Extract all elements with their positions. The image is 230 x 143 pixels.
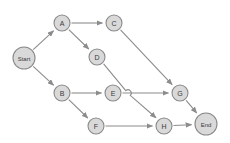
edge-c-to-g [121,30,173,85]
graph-canvas: StartACDBEFGHEnd [0,0,230,143]
nodes-layer: StartACDBEFGHEnd [13,15,217,135]
edge-h-to-end [173,125,191,126]
node-circle-e[interactable] [105,85,121,101]
edge-a-to-d [69,30,89,49]
node-circle-end[interactable] [195,113,217,135]
edge-start-to-a [33,31,53,50]
node-circle-c[interactable] [106,15,122,31]
graph-node-a[interactable]: A [54,15,70,31]
graph-node-b[interactable]: B [54,85,70,101]
graph-node-h[interactable]: H [156,118,172,134]
edge-b-to-f [69,100,88,118]
node-circle-f[interactable] [88,118,104,134]
graph-node-f[interactable]: F [88,118,104,134]
edge-g-to-end [186,100,197,113]
node-circle-d[interactable] [89,49,105,65]
node-circle-h[interactable] [156,118,172,134]
graph-node-start[interactable]: Start [13,47,35,69]
graph-node-d[interactable]: D [89,49,105,65]
node-circle-a[interactable] [54,15,70,31]
graph-node-g[interactable]: G [172,85,188,101]
edges-layer [33,23,196,126]
graph-node-c[interactable]: C [106,15,122,31]
node-circle-g[interactable] [172,85,188,101]
graph-node-e[interactable]: E [105,85,121,101]
graph-svg: StartACDBEFGHEnd [0,0,230,143]
graph-node-end[interactable]: End [195,113,217,135]
node-circle-start[interactable] [13,47,35,69]
node-circle-b[interactable] [54,85,70,101]
edge-start-to-b [33,66,53,85]
